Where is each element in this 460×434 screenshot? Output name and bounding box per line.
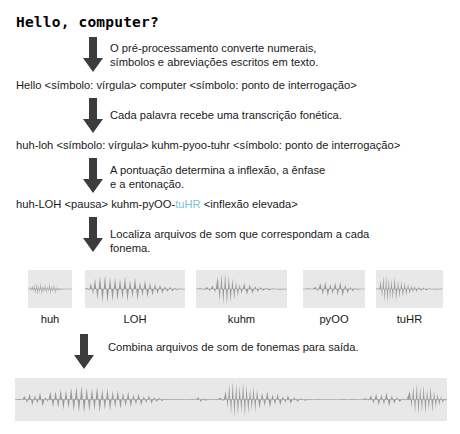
step-note-4: Localiza arquivos de som que corresponda…: [110, 227, 410, 255]
accented-phoneme-segment: tuHR: [175, 198, 201, 210]
tts-pipeline-diagram: Hello, computer? O pré-processamento con…: [0, 0, 460, 434]
step-note-3: A pontuação determina a inflexão, a ênfa…: [110, 163, 370, 191]
down-arrow-icon-2: [82, 98, 104, 134]
down-arrow-icon-5: [73, 334, 95, 370]
phoneme-segment-0: huh-LOH <pausa> kuhm-pyOO-: [16, 198, 175, 210]
phoneme-waveform-0: [28, 270, 72, 308]
phoneme-segment-2: <inflexão elevada>: [201, 198, 298, 210]
down-arrow-icon-4: [82, 217, 104, 253]
transcription-line-2: huh-loh <símbolo: vírgula> kuhm-pyoo-tuh…: [16, 139, 400, 152]
phoneme-waveform-4: [376, 270, 443, 308]
output-waveform: [15, 378, 447, 421]
step-note-1: O pré-processamento converte numerais, s…: [110, 41, 360, 69]
phoneme-waveform-1: [85, 270, 185, 308]
phoneme-label-3: pyOO: [303, 313, 365, 325]
down-arrow-icon-3: [82, 158, 104, 194]
step-note-2: Cada palavra recebe uma transcrição foné…: [110, 108, 390, 122]
phoneme-label-2: kuhm: [196, 313, 287, 325]
phoneme-waveform-2: [196, 270, 287, 308]
page-title: Hello, computer?: [16, 14, 159, 30]
phoneme-label-0: huh: [28, 313, 72, 325]
phoneme-label-4: tuHR: [376, 313, 443, 325]
transcription-line-3: huh-LOH <pausa> kuhm-pyOO-tuHR <inflexão…: [16, 198, 298, 211]
transcription-line-1: Hello <símbolo: vírgula> computer <símbo…: [16, 79, 357, 92]
phoneme-waveform-3: [303, 270, 365, 308]
phoneme-label-1: LOH: [85, 313, 185, 325]
step-note-5: Combina arquivos de som de fonemas para …: [108, 340, 428, 354]
down-arrow-icon-1: [82, 37, 104, 73]
